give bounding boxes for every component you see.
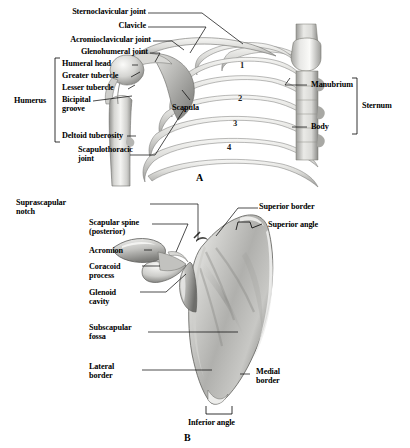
label-glenoid-cavity: Glenoid cavity (89, 288, 116, 307)
label-superior-border: Superior border (259, 202, 314, 211)
leader-lines-b (140, 204, 258, 374)
clavicle-shape (139, 38, 276, 60)
label-acromioclavicular-joint: Acromioclavicular joint (8, 35, 151, 44)
label-glenohumeral-joint: Glenohumeral joint (18, 47, 148, 56)
bracket-inferior-angle (206, 406, 232, 414)
subscapular-fossa-ridges (200, 248, 254, 346)
label-superior-angle: Superior angle (268, 220, 318, 229)
label-lesser-tubercle: Lesser tubercle (62, 83, 114, 92)
label-scapulothoracic-joint: Scapulothoracic joint (78, 145, 133, 164)
label-acromion: Acromion (89, 246, 123, 255)
sternum (291, 24, 325, 160)
manubrium-shape (291, 38, 321, 71)
label-humerus-bracket: Humerus (14, 96, 46, 105)
label-sternum-bracket: Sternum (362, 101, 392, 110)
label-medial-border: Medial border (256, 367, 280, 386)
panel-b-artwork (0, 192, 410, 448)
subscapular-fossa-shade (202, 262, 246, 342)
medial-border-highlight (254, 230, 273, 358)
rib-number-3: 3 (233, 118, 237, 128)
coracoid-process-shape (142, 259, 186, 282)
inferior-angle-shape (208, 390, 228, 404)
superior-angle-shape (240, 216, 264, 226)
panel-letter-b: B (184, 432, 191, 443)
rib-number-4: 4 (227, 142, 231, 152)
label-scapula: Scapula (172, 103, 199, 112)
lateral-border-edge (193, 246, 206, 378)
label-clavicle: Clavicle (18, 21, 146, 30)
label-scapular-spine: Scapular spine (posterior) (89, 218, 139, 237)
ribcage (143, 43, 318, 188)
label-subscapular-fossa: Subscapular fossa (89, 323, 132, 342)
label-sternum-body: Body (311, 122, 329, 131)
panel-a-shoulder-girdle: Sternoclavicular joint Clavicle Acromioc… (0, 0, 410, 192)
label-coracoid-process: Coracoid process (89, 262, 121, 281)
label-humeral-head: Humeral head (62, 59, 111, 68)
label-bicipital-groove: Bicipital groove (62, 95, 91, 114)
label-inferior-angle: Inferior angle (188, 418, 235, 427)
rib-number-2: 2 (238, 93, 242, 103)
label-manubrium: Manubrium (311, 80, 353, 89)
bracket-humerus (55, 58, 60, 142)
panel-b-scapula-anterior: Suprascapular notch Scapular spine (post… (0, 192, 410, 448)
anatomy-figure: Sternoclavicular joint Clavicle Acromioc… (0, 0, 410, 448)
suprascapular-notch-shape (196, 237, 208, 242)
fossa-shade-2 (242, 252, 262, 328)
panel-letter-a: A (196, 172, 203, 183)
label-greater-tubercle: Greater tubercle (62, 71, 118, 80)
rib-number-1: 1 (240, 60, 244, 70)
scapular-spine-shape (158, 252, 186, 271)
label-lateral-border: Lateral border (89, 362, 114, 381)
label-sternoclavicular-joint: Sternoclavicular joint (18, 7, 146, 16)
label-suprascapular-notch: Suprascapular notch (16, 198, 148, 217)
label-deltoid-tuberosity: Deltoid tuberosity (62, 131, 123, 140)
bracket-superior-angle (236, 222, 262, 230)
glenoid-cavity-shape (179, 262, 196, 312)
